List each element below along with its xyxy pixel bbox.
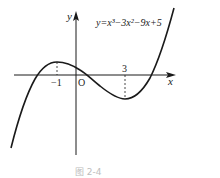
- origin-label: O: [78, 77, 85, 88]
- equation-label: y=x³−3x²−9x+5: [95, 17, 162, 28]
- figure-caption: 图 2-4: [75, 167, 102, 177]
- x-axis-label: x: [167, 75, 173, 87]
- cubic-curve: [11, 8, 174, 148]
- tick-label-three: 3: [122, 63, 127, 74]
- function-graph: y x O −1 3 y=x³−3x²−9x+5 图 2-4: [0, 0, 220, 178]
- y-axis-label: y: [66, 10, 72, 22]
- tick-label-neg-one: −1: [51, 77, 62, 88]
